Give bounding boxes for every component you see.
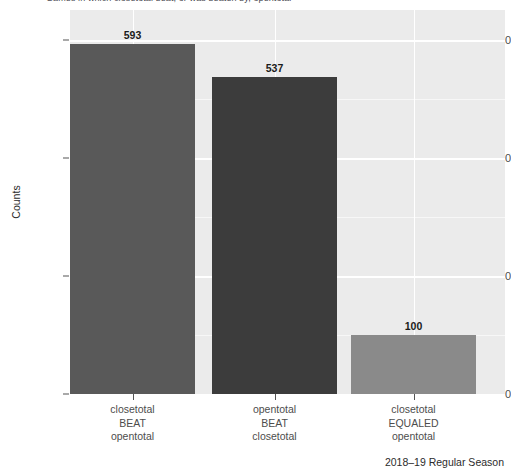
chart-title: Games in which closetotal beat, or was b… bbox=[46, 0, 291, 3]
x-axis-tick-label-line: EQUALED bbox=[388, 417, 438, 431]
x-axis-tick-label-line: BEAT bbox=[252, 417, 296, 431]
bar[interactable] bbox=[212, 77, 337, 394]
x-axis-tick-label-line: closetotal bbox=[388, 403, 438, 417]
bar-value-label: 537 bbox=[266, 62, 284, 74]
x-axis-tick-label-line: opentotal bbox=[252, 403, 296, 417]
x-axis-tick-mark bbox=[275, 394, 276, 400]
y-axis-tick-mark bbox=[63, 158, 69, 159]
plot-panel bbox=[70, 10, 505, 394]
x-axis-tick-label-line: closetotal bbox=[110, 403, 154, 417]
x-axis-tick-label-line: opentotal bbox=[388, 430, 438, 444]
y-axis-title-text: Counts bbox=[10, 185, 22, 218]
x-axis-tick-label: opentotalBEATclosetotal bbox=[252, 403, 296, 444]
x-axis-tick-label: closetotalBEATopentotal bbox=[110, 403, 154, 444]
y-axis-tick-mark bbox=[63, 276, 69, 277]
bar[interactable] bbox=[70, 44, 195, 394]
bar-value-label: 593 bbox=[124, 29, 142, 41]
x-axis-tick-mark bbox=[414, 394, 415, 400]
chart-caption: 2018–19 Regular Season bbox=[385, 456, 504, 468]
x-axis-tick-label-line: opentotal bbox=[110, 430, 154, 444]
x-axis-tick-label-line: closetotal bbox=[252, 430, 296, 444]
x-axis-tick-mark bbox=[133, 394, 134, 400]
y-axis-tick-mark bbox=[63, 394, 69, 395]
bar-chart: Games in which closetotal beat, or was b… bbox=[0, 0, 511, 473]
y-axis-tick-mark bbox=[63, 40, 69, 41]
x-axis-tick-label-line: BEAT bbox=[110, 417, 154, 431]
y-axis-title: Counts bbox=[5, 0, 27, 404]
bar[interactable] bbox=[351, 335, 476, 394]
bar-value-label: 100 bbox=[405, 320, 423, 332]
x-axis-tick-label: closetotalEQUALEDopentotal bbox=[388, 403, 438, 444]
